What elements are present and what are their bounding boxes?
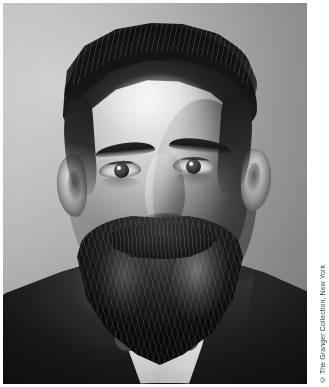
print-grain-texture bbox=[3, 3, 307, 384]
image-credit: © The Granger Collection, New York bbox=[316, 183, 328, 383]
image-credit-text: © The Granger Collection, New York bbox=[318, 265, 327, 383]
portrait-photograph bbox=[3, 3, 307, 384]
portrait-figure: © The Granger Collection, New York bbox=[0, 0, 329, 387]
